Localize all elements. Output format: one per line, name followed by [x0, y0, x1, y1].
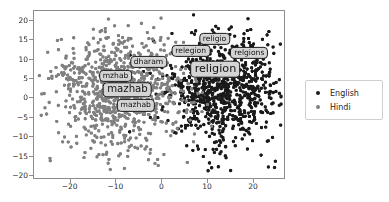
legend-swatch-english [316, 91, 320, 95]
y-tick-mark [29, 156, 33, 157]
y-tick-label: 0 [2, 93, 28, 102]
x-tick-mark [207, 179, 208, 183]
y-tick-mark [29, 20, 33, 21]
word-annotation: religio [199, 32, 230, 44]
y-tick-label: 5 [2, 73, 28, 82]
x-tick-label: −10 [100, 182, 130, 191]
x-tick-label: 0 [146, 182, 176, 191]
word-annotation: religion [191, 61, 241, 78]
y-tick-mark [29, 97, 33, 98]
y-tick-label: 20 [2, 15, 28, 24]
x-tick-label: −20 [55, 182, 85, 191]
scatter-points-canvas [34, 11, 284, 178]
legend-item-hindi[interactable]: Hindi [312, 100, 378, 114]
scatter-plot-figure: religiorelegionrelgionsreligiondharammzh… [0, 0, 389, 202]
x-tick-mark [161, 179, 162, 183]
y-tick-label: −15 [2, 151, 28, 160]
y-tick-mark [29, 59, 33, 60]
x-tick-mark [253, 179, 254, 183]
y-tick-label: −5 [2, 112, 28, 121]
y-tick-mark [29, 39, 33, 40]
word-annotation: mazhab [103, 82, 152, 97]
x-tick-mark [115, 179, 116, 183]
legend-item-english[interactable]: English [312, 86, 378, 100]
word-annotation: relgions [230, 46, 268, 58]
word-annotation: mzhab [99, 70, 133, 82]
legend-swatch-hindi [316, 105, 320, 109]
y-tick-label: 10 [2, 54, 28, 63]
plot-axes-area: religiorelegionrelgionsreligiondharammzh… [33, 10, 285, 179]
y-tick-label: −20 [2, 171, 28, 180]
x-tick-mark [70, 179, 71, 183]
x-tick-label: 20 [238, 182, 268, 191]
y-tick-label: −10 [2, 132, 28, 141]
legend-label-english: English [330, 89, 359, 98]
y-tick-mark [29, 136, 33, 137]
word-annotation: relegion [171, 45, 210, 57]
y-tick-mark [29, 117, 33, 118]
x-tick-label: 10 [192, 182, 222, 191]
legend-box: English Hindi [305, 80, 383, 120]
word-annotation: mazhab [117, 99, 155, 111]
legend-label-hindi: Hindi [330, 103, 351, 112]
y-tick-label: 15 [2, 35, 28, 44]
word-annotation: dharam [130, 56, 167, 68]
y-tick-mark [29, 175, 33, 176]
y-tick-mark [29, 78, 33, 79]
